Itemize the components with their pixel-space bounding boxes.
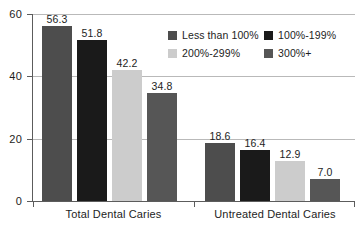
bar-total-100-199 (77, 40, 107, 201)
group-label-total-dental-caries: Total Dental Caries (33, 208, 194, 220)
y-tick-mark-20 (27, 139, 33, 140)
bar-total-200-299 (112, 70, 142, 201)
bar-value-untreated-less-than-100: 18.6 (205, 131, 235, 142)
y-tick-label-0: 0 (0, 196, 22, 207)
legend-item-200-299: 200%-299% (168, 48, 264, 59)
bar-value-total-300-plus: 34.8 (147, 81, 177, 92)
y-tick-label-40: 40 (0, 71, 22, 82)
bar-total-300-plus (147, 93, 177, 201)
bar-value-untreated-200-299: 12.9 (275, 149, 305, 160)
y-axis-line (32, 14, 33, 202)
bar-value-total-less-than-100: 56.3 (42, 14, 72, 25)
legend-swatch-icon-300-plus (264, 49, 273, 58)
bar-untreated-200-299 (275, 161, 305, 201)
y-tick-label-20: 20 (0, 134, 22, 145)
y-tick-mark-60 (27, 14, 33, 15)
legend-swatch-icon-less-than-100 (168, 31, 177, 40)
bar-total-less-than-100 (42, 26, 72, 201)
legend: Less than 100% 100%-199% 200%-299% 300%+ (168, 26, 358, 62)
gridline-60 (33, 14, 355, 15)
x-axis-tick-group-separator (194, 201, 195, 207)
legend-swatch-icon-200-299 (168, 49, 177, 58)
x-axis-tick-left (33, 201, 34, 207)
legend-item-100-199: 100%-199% (264, 30, 358, 41)
group-label-untreated-dental-caries: Untreated Dental Caries (195, 208, 355, 220)
y-tick-label-60: 60 (0, 9, 22, 20)
bar-value-untreated-300-plus: 7.0 (310, 167, 340, 178)
bar-untreated-100-199 (240, 150, 270, 201)
bar-value-total-200-299: 42.2 (112, 58, 142, 69)
legend-label-200-299: 200%-299% (182, 48, 240, 59)
legend-label-less-than-100: Less than 100% (182, 30, 259, 41)
x-axis-tick-right (354, 201, 355, 207)
bar-untreated-300-plus (310, 179, 340, 201)
y-tick-mark-40 (27, 76, 33, 77)
bar-chart-figure: 60 40 20 0 56.3 51.8 42.2 34.8 18.6 16.4… (0, 0, 361, 233)
bar-untreated-less-than-100 (205, 143, 235, 201)
legend-swatch-icon-100-199 (264, 31, 273, 40)
legend-label-300-plus: 300%+ (278, 48, 312, 59)
bar-value-untreated-100-199: 16.4 (240, 138, 270, 149)
legend-item-less-than-100: Less than 100% (168, 30, 264, 41)
bar-value-total-100-199: 51.8 (77, 28, 107, 39)
legend-item-300-plus: 300%+ (264, 48, 358, 59)
legend-label-100-199: 100%-199% (278, 30, 336, 41)
